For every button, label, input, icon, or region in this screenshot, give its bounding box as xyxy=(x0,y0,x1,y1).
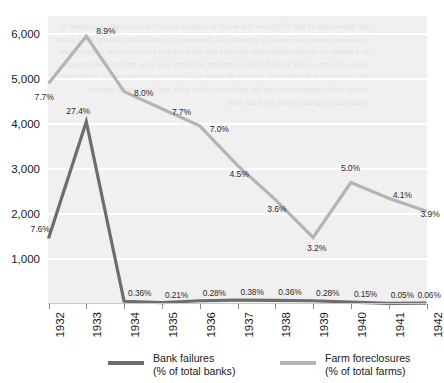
x-axis-tick-label-1934: 1934 xyxy=(129,312,141,338)
data-label-farm-1938: 3.6% xyxy=(267,204,286,214)
data-label-farm-1936: 7.0% xyxy=(210,124,229,134)
x-axis-tick-label-1933: 1933 xyxy=(91,312,103,338)
x-axis-tick-label-1932: 1932 xyxy=(54,312,66,338)
data-label-farm-1933: 8.9% xyxy=(96,26,115,36)
legend-label: Farm foreclosures(% of total farms) xyxy=(325,352,410,379)
y-axis-tick-label: 5,000 xyxy=(11,73,40,85)
legend-label: Bank failures(% of total banks) xyxy=(153,352,235,379)
x-axis-tick-label-1939: 1939 xyxy=(318,312,330,338)
data-label-bank-1936: 0.28% xyxy=(203,288,226,298)
data-label-bank-1940: 0.15% xyxy=(354,289,377,299)
legend-label-name: Farm foreclosures xyxy=(325,352,410,365)
data-label-farm-1940: 5.0% xyxy=(341,163,360,173)
x-axis-tick-mark xyxy=(238,304,239,309)
y-axis-tick-label: 2,000 xyxy=(11,208,40,220)
x-axis-tick-mark xyxy=(427,304,428,309)
legend-item-farm-foreclosures[interactable]: Farm foreclosures(% of total farms) xyxy=(280,352,410,379)
x-axis-tick-label-1935: 1935 xyxy=(167,312,179,338)
data-label-bank-1934: 0.36% xyxy=(128,288,151,298)
data-label-bank-1933: 27.4% xyxy=(66,106,90,116)
y-axis: 1,0002,0003,0004,0005,0006,000 xyxy=(0,0,44,320)
x-axis-tick-label-1937: 1937 xyxy=(243,312,255,338)
y-axis-tick-label: 6,000 xyxy=(11,28,40,40)
data-label-bank-1941: 0.05% xyxy=(391,290,414,300)
legend-item-bank-failures[interactable]: Bank failures(% of total banks) xyxy=(108,352,235,379)
data-label-bank-1942: 0.06% xyxy=(418,290,441,300)
data-label-farm-1942: 3.9% xyxy=(421,209,440,219)
x-axis-tick-label-1938: 1938 xyxy=(280,312,292,338)
x-axis-tick-label-1942: 1942 xyxy=(432,312,444,338)
series-lines xyxy=(48,16,427,304)
x-axis-tick-label-1940: 1940 xyxy=(356,312,368,338)
chart-legend: Bank failures(% of total banks)Farm fore… xyxy=(0,352,444,383)
y-axis-tick-label: 1,000 xyxy=(11,253,40,265)
x-axis-tick-mark xyxy=(162,304,163,309)
data-label-farm-1939: 3.2% xyxy=(307,243,326,253)
x-axis-tick-mark xyxy=(49,304,50,309)
x-axis-tick-label-1936: 1936 xyxy=(205,312,217,338)
data-label-bank-1938: 0.36% xyxy=(278,287,301,297)
data-label-farm-1941: 4.1% xyxy=(393,190,412,200)
data-label-bank-1937: 0.38% xyxy=(241,287,264,297)
legend-swatch xyxy=(280,361,316,365)
legend-label-detail: (% of total farms) xyxy=(325,365,410,378)
x-axis-tick-mark xyxy=(313,304,314,309)
x-axis: 1932193319341935193619371938193919401941… xyxy=(48,304,427,352)
x-axis-tick-mark xyxy=(389,304,390,309)
x-axis-tick-mark xyxy=(200,304,201,309)
data-label-farm-1935: 7.7% xyxy=(172,107,191,117)
x-axis-tick-mark xyxy=(124,304,125,309)
y-axis-tick-label: 3,000 xyxy=(11,163,40,175)
x-axis-tick-label-1941: 1941 xyxy=(394,312,406,338)
x-axis-tick-mark xyxy=(86,304,87,309)
data-label-farm-1937: 4.5% xyxy=(230,169,249,179)
chart-container: the depression of the 1930s was the wors… xyxy=(0,0,444,383)
y-axis-tick-label: 4,000 xyxy=(11,118,40,130)
x-axis-tick-mark xyxy=(275,304,276,309)
x-axis-tick-mark xyxy=(351,304,352,309)
legend-label-name: Bank failures xyxy=(153,352,235,365)
data-label-bank-1939: 0.28% xyxy=(316,288,339,298)
data-label-farm-1934: 8.0% xyxy=(134,88,153,98)
plot-area: the depression of the 1930s was the wors… xyxy=(48,16,427,304)
legend-swatch xyxy=(108,361,144,365)
data-label-bank-1935: 0.21% xyxy=(165,290,188,300)
series-line-bank-failures xyxy=(49,122,427,304)
legend-label-detail: (% of total banks) xyxy=(153,365,235,378)
